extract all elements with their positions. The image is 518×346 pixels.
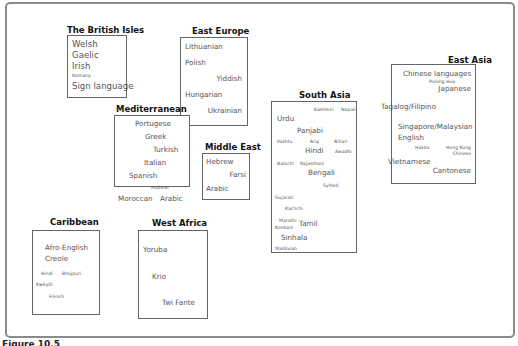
language-label: Arabic (160, 194, 183, 203)
group-box-east-europe: Lithuanian Polish Yiddish Hungarian Ukra… (180, 37, 248, 126)
group-title-british-isles: The British Isles (67, 25, 144, 35)
language-label: Tagalog/Filipino (381, 102, 436, 111)
language-label: Vietnamese (388, 157, 431, 166)
group-title-south-asia: South Asia (299, 90, 350, 100)
language-label: Marathi (279, 218, 296, 223)
language-label: Turkish (153, 145, 178, 154)
language-label: Hong Kong (446, 145, 471, 150)
group-box-caribbean: Afro-English Creole Hindi Bhojpuri Kwéyò… (32, 230, 100, 315)
language-label: Gaelic (72, 50, 99, 60)
language-label: English (398, 133, 424, 142)
language-label: Polish (185, 58, 206, 67)
language-label: Sinhala (281, 233, 307, 242)
language-label: Cantonese (433, 166, 471, 175)
language-label: Yoruba (143, 245, 167, 254)
language-label: Braj (310, 139, 319, 144)
language-label: Arabic (206, 184, 229, 193)
language-label: Welsh (72, 39, 98, 49)
language-label: Maltese (151, 185, 169, 190)
language-label: Hakka (415, 145, 429, 150)
language-label: Spanish (129, 171, 157, 180)
language-label: Romany (72, 73, 91, 78)
language-label: Ukrainian (208, 106, 242, 115)
language-label: Chinese languages (403, 69, 471, 78)
language-label: Krio (152, 272, 166, 281)
language-label: Hungarian (185, 90, 222, 99)
language-label: Kwéyòl (36, 282, 52, 287)
language-label: Twi Fante (162, 298, 195, 307)
language-label: Bengali (308, 168, 335, 177)
group-title-west-africa: West Africa (152, 218, 207, 228)
group-title-east-europe: East Europe (192, 26, 249, 36)
language-label: Maldivian (275, 246, 297, 251)
language-label: Portugese (135, 119, 171, 128)
language-label: Hebrew (206, 157, 234, 166)
language-label: Pashtu (277, 139, 292, 144)
language-label: Yiddish (216, 74, 242, 83)
language-label: Kashmiri (314, 107, 334, 112)
group-title-caribbean: Caribbean (50, 217, 99, 227)
language-label: Urdu (277, 114, 294, 123)
language-label: Lithuanian (185, 42, 223, 51)
language-label: Bhojpuri (62, 271, 81, 276)
group-box-west-africa: Yoruba Krio Twi Fante (138, 230, 208, 319)
language-label: Panjabi (297, 126, 323, 135)
group-title-mediterranean: Mediterranean (116, 104, 187, 114)
language-label: Konkani (275, 225, 293, 230)
language-label: Rajasthani (300, 161, 324, 166)
group-box-mediterranean: Portugese Greek Turkish Italian Spanish … (114, 115, 190, 187)
group-title-middle-east: Middle East (205, 142, 261, 152)
language-label: Hindi (41, 271, 53, 276)
group-box-east-asia: Chinese languages Pulong Hua Japanese Ta… (391, 64, 476, 184)
language-label: Sylheti (323, 183, 339, 188)
language-label: French (49, 294, 64, 299)
language-label: Chinese (453, 151, 471, 156)
figure-caption: Figure 10.5 (2, 339, 60, 346)
language-label: Bihari (334, 139, 347, 144)
language-label: Sign language (72, 81, 134, 91)
caption-label: Figure 10.5 (2, 339, 60, 346)
language-label: Nepali (341, 107, 356, 112)
language-label: Hindi (305, 146, 324, 155)
language-label: Tamil (299, 219, 318, 228)
language-label: Awadhi (335, 149, 352, 154)
group-box-middle-east: Hebrew Farsi Arabic (202, 153, 250, 200)
language-label: Kachchi (285, 206, 303, 211)
group-box-british-isles: Welsh Gaelic Irish Romany Sign language (67, 35, 127, 98)
language-label: Singapore/Malaysian (398, 122, 473, 131)
language-label: Italian (144, 158, 166, 167)
language-label: Creole (45, 254, 68, 263)
language-label: Gujarati (275, 195, 293, 200)
language-label: Afro-English (45, 243, 88, 252)
language-label: Baluchi (277, 161, 294, 166)
language-label: Irish (72, 61, 90, 71)
language-label: Moroccan (118, 194, 153, 203)
language-label: Greek (145, 132, 166, 141)
group-box-south-asia: Kashmiri Nepali Urdu Panjabi Pashtu Braj… (271, 101, 357, 253)
language-label: Japanese (438, 84, 471, 93)
language-label: Farsi (229, 170, 246, 179)
